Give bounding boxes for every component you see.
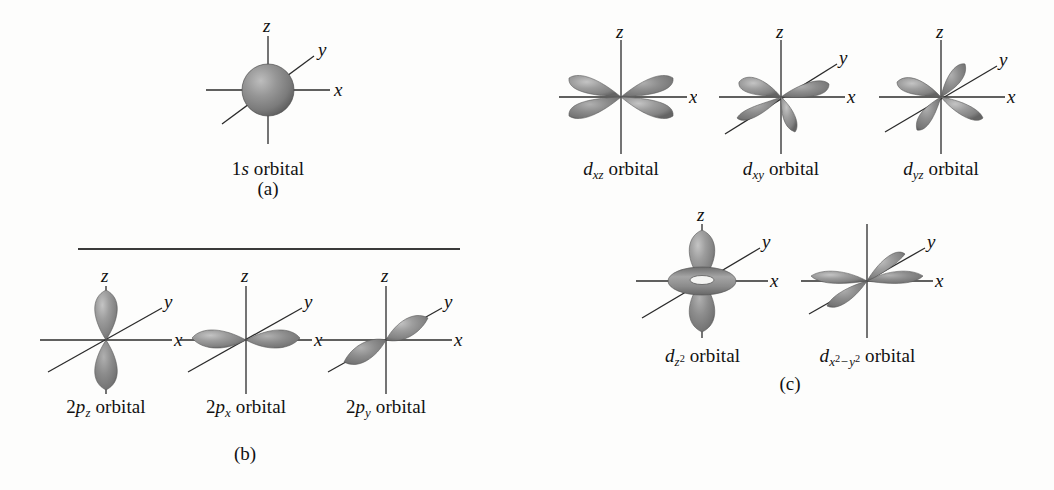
caption-dxz: dxz orbital — [545, 158, 697, 183]
axis-label-y: y — [442, 291, 453, 312]
axis-label-z: z — [935, 26, 944, 42]
d-lobe-upper-left — [739, 77, 781, 97]
axis-label-x: x — [934, 270, 944, 291]
caption-dx2y2: dx2−y2 orbital — [785, 345, 950, 370]
axis-label-z: z — [696, 208, 705, 225]
panel-label-a: (a) — [218, 178, 318, 200]
orbital-cell-2py: z y x 2py orbital — [306, 268, 466, 448]
orbital-cell-1s: z y x 1s orbital — [188, 16, 348, 196]
panel-label-c: (c) — [740, 373, 840, 395]
d-lobe-lower-left — [916, 97, 941, 130]
axis-label-y: y — [316, 39, 327, 60]
orbital-cell-dxz: z x dxz orbital — [545, 26, 697, 206]
axis-label-z: z — [100, 268, 109, 286]
axis-label-z: z — [240, 268, 249, 286]
diagram-dz2: z y x — [620, 208, 785, 353]
axis-label-y: y — [997, 49, 1008, 70]
caption-2pz: 2pz orbital — [26, 396, 186, 421]
axis-label-z: z — [615, 26, 624, 42]
axis-label-x: x — [688, 86, 697, 107]
caption-2px: 2px orbital — [166, 396, 326, 421]
orbital-cell-dx2y2: y x dx2−y2 orbital — [785, 208, 950, 393]
diagram-2pz: z y x — [26, 268, 186, 408]
d-lobe-upper-left — [897, 78, 941, 97]
d-lobe-lower-left — [737, 97, 781, 120]
diagram-dxz: z x — [545, 26, 697, 166]
axis-label-z: z — [262, 16, 271, 36]
axis-label-x: x — [333, 79, 343, 100]
diagram-dyz: z y x — [865, 26, 1017, 166]
d-lobe-lower-left — [569, 97, 621, 119]
axis-label-y: y — [837, 47, 848, 68]
axis-label-z: z — [775, 26, 784, 42]
panel-label-b: (b) — [195, 443, 295, 465]
p-lobe-upper-right — [386, 315, 428, 340]
d-lobe-upper-right — [621, 75, 673, 97]
axis-label-y: y — [925, 231, 936, 252]
p-lobe-right — [246, 330, 300, 348]
p-lobe-upper — [95, 290, 118, 340]
caption-sub-z2: z2 — [675, 354, 685, 369]
axis-label-z: z — [380, 268, 389, 286]
diagram-1s: z y x — [188, 16, 348, 156]
caption-dyz: dyz orbital — [865, 158, 1017, 183]
dz2-torus-hole — [690, 276, 714, 285]
s-orbital-sphere — [242, 64, 294, 116]
orbital-cell-dz2: z y x dz2 orbital — [620, 208, 785, 393]
orbital-cell-2pz: z y x 2pz orbital — [26, 268, 186, 448]
orbital-figure: z y x 1s orbital z y x 2pz orbital — [0, 0, 1054, 490]
d-lobe-y-negative — [827, 281, 867, 307]
caption-1s: 1s orbital — [188, 158, 348, 180]
diagram-2px: z y x — [166, 268, 326, 408]
orbital-cell-dxy: z y x dxy orbital — [705, 26, 857, 206]
d-lobe-upper-left — [569, 75, 621, 97]
diagram-dx2y2: y x — [785, 208, 950, 353]
p-lobe-lower-left — [344, 339, 386, 364]
axis-label-x: x — [846, 86, 856, 107]
diagram-dxy: z y x — [705, 26, 857, 166]
orbital-cell-dyz: z y x dyz orbital — [865, 26, 1017, 206]
axis-label-y: y — [760, 231, 771, 252]
d-lobe-lower-right — [781, 97, 797, 132]
caption-dxy: dxy orbital — [705, 158, 857, 183]
d-lobe-lower-right — [941, 97, 983, 120]
caption-2py: 2py orbital — [306, 396, 466, 421]
axis-label-x: x — [453, 329, 463, 350]
diagram-2py: z y x — [306, 268, 466, 408]
caption-sub-x2y2: x2−y2 — [829, 354, 860, 369]
p-lobe-left — [192, 330, 246, 348]
orbital-cell-2px: z y x 2px orbital — [166, 268, 326, 448]
d-lobe-lower-right — [621, 97, 673, 119]
axis-label-x: x — [769, 270, 779, 291]
caption-dz2: dz2 orbital — [620, 345, 785, 370]
p-lobe-lower — [95, 340, 118, 390]
panel-divider — [78, 248, 460, 250]
axis-label-x: x — [1006, 86, 1016, 107]
